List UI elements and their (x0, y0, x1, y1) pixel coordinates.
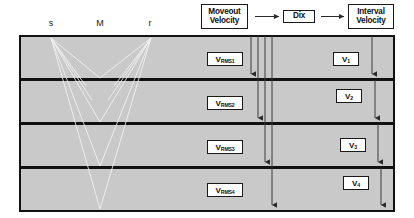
rms-subscript-2: RMS2 (221, 102, 235, 108)
rms-velocity-label-3: VRMS3 (207, 140, 243, 154)
rms-subscript-1: RMS1 (221, 58, 235, 64)
rms-velocity-label-4: VRMS4 (207, 183, 243, 197)
rms-subscript-4: RMS4 (221, 189, 235, 195)
interval-subscript-2: 2 (350, 95, 353, 101)
diagram-canvas: Moveout Velocity Dix Interval Velocity s… (0, 0, 414, 218)
interval-velocity-label-3: V3 (340, 138, 366, 152)
rms-velocity-label-2: VRMS2 (207, 96, 243, 110)
interval-subscript-3: 3 (354, 144, 357, 150)
interval-velocity-label-2: V2 (336, 89, 362, 103)
interval-subscript-1: 1 (347, 58, 350, 64)
rms-subscript-3: RMS3 (221, 146, 235, 152)
interval-velocity-label-4: V4 (343, 176, 369, 190)
interval-subscript-4: 4 (357, 182, 360, 188)
rms-velocity-label-1: VRMS1 (207, 52, 243, 66)
interval-velocity-label-1: V1 (333, 52, 359, 66)
